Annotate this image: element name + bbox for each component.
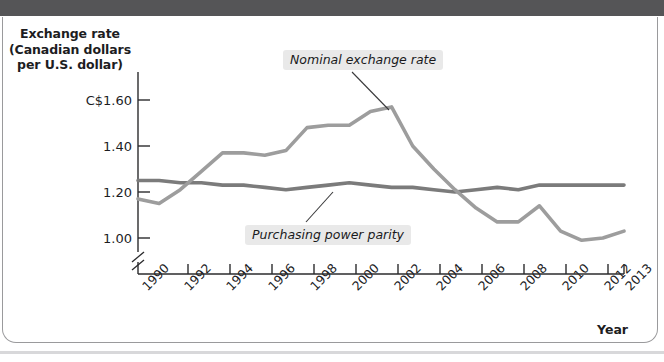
figure-container: Exchange rate (Canadian dollars per U.S.… xyxy=(0,0,664,362)
annotation-leader-lines xyxy=(306,72,389,222)
series-line-purchasing-power-parity xyxy=(138,181,624,193)
leader-line-ppp xyxy=(306,192,333,222)
axes-group xyxy=(132,72,624,274)
axis-break-mark-1 xyxy=(132,252,144,262)
x-ticks-group xyxy=(188,264,624,274)
leader-line-nominal xyxy=(352,72,389,110)
series-lines-group xyxy=(138,107,624,240)
chart-plot-area xyxy=(0,0,664,362)
series-line-nominal-exchange-rate xyxy=(138,107,624,240)
